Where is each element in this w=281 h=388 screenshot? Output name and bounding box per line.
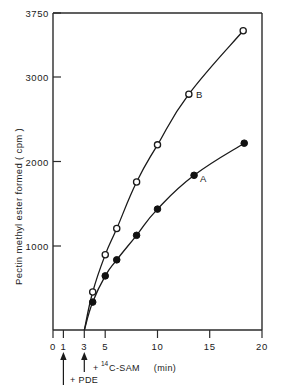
series-a-markers	[89, 140, 247, 306]
x-tick-label-1: 1	[60, 341, 66, 352]
series-b-markers	[90, 28, 247, 295]
data-point	[134, 179, 140, 185]
data-point	[154, 206, 161, 213]
x-tick-label-3: 3	[81, 341, 87, 352]
x-tick-label-15: 15	[204, 341, 216, 352]
x-axis-tick-labels: 0 1 3 5 10 15 20	[50, 341, 268, 352]
data-point	[114, 225, 120, 231]
data-point	[102, 252, 108, 258]
data-point	[113, 257, 120, 264]
sam-arrow-head	[81, 352, 87, 360]
pde-label: + PDE	[70, 375, 98, 385]
y-tick-label-3750: 3750	[25, 8, 49, 19]
plot-frame	[53, 13, 262, 330]
series-b-label: B	[196, 89, 202, 100]
annotation-sam: + 14 C-SAM	[81, 352, 140, 373]
data-point	[240, 28, 246, 34]
series-b-curve	[84, 31, 243, 330]
data-point	[186, 91, 192, 97]
data-point	[89, 299, 96, 306]
data-point	[191, 172, 198, 179]
y-tick-label-3000: 3000	[25, 72, 49, 83]
y-axis-title: Pectin methyl ester formed ( cpm )	[13, 128, 24, 285]
chart-svg: 3750 3000 2000 1000 Pectin methyl ester …	[0, 0, 281, 388]
y-axis-ticks	[53, 13, 61, 246]
data-point	[90, 289, 96, 295]
x-tick-label-20: 20	[256, 341, 268, 352]
chart-figure: 3750 3000 2000 1000 Pectin methyl ester …	[0, 0, 281, 388]
data-point	[154, 142, 160, 148]
y-tick-label-2000: 2000	[25, 157, 49, 168]
y-axis-tick-labels: 3750 3000 2000 1000	[25, 8, 49, 252]
series-a-label: A	[200, 173, 207, 184]
data-point	[241, 140, 248, 147]
data-point	[133, 232, 140, 239]
pde-arrow-head	[60, 352, 66, 360]
x-axis-ticks	[53, 330, 262, 338]
sam-label-main: C-SAM	[109, 363, 140, 373]
series-a-curve	[84, 143, 244, 330]
data-point	[102, 273, 109, 280]
x-tick-label-5: 5	[102, 341, 108, 352]
sam-label-prefix: +	[93, 363, 99, 373]
sam-label-superscript: 14	[101, 360, 109, 367]
x-tick-label-10: 10	[152, 341, 164, 352]
x-tick-label-0: 0	[50, 341, 56, 352]
y-tick-label-1000: 1000	[25, 241, 49, 252]
x-axis-unit-label: (min)	[154, 363, 177, 373]
